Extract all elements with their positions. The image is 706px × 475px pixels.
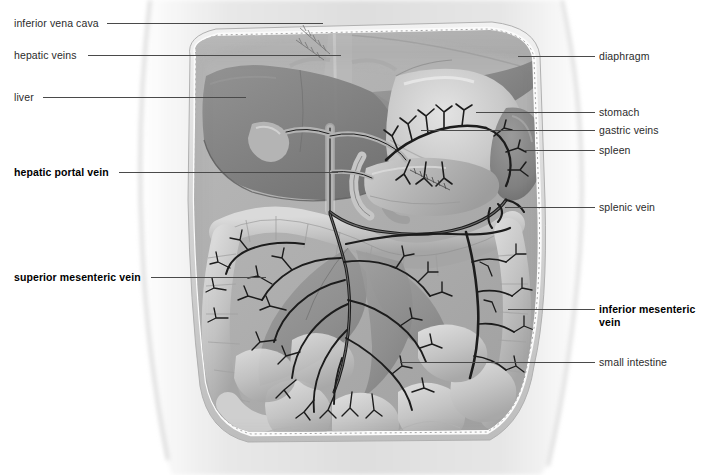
anatomical-illustration bbox=[0, 0, 706, 475]
leader-inferior-vena-cava bbox=[107, 23, 323, 24]
leader-small-intestine bbox=[400, 362, 595, 363]
label-hepatic-veins: hepatic veins bbox=[14, 49, 77, 62]
leader-diaphragm bbox=[518, 56, 595, 57]
leader-hepatic-portal-vein bbox=[119, 172, 338, 173]
label-spleen: spleen bbox=[599, 144, 631, 157]
label-gastric-veins: gastric veins bbox=[599, 124, 659, 137]
abdominal-cavity-contents bbox=[180, 18, 560, 452]
label-inferior-mesenteric-vein: inferior mesenteric vein bbox=[599, 303, 699, 328]
label-liver: liver bbox=[14, 91, 34, 104]
label-small-intestine: small intestine bbox=[599, 356, 667, 369]
label-splenic-vein: splenic vein bbox=[599, 201, 655, 214]
label-inferior-vena-cava: inferior vena cava bbox=[14, 17, 99, 30]
leader-superior-mesenteric-vein bbox=[151, 277, 266, 278]
label-superior-mesenteric-vein: superior mesenteric vein bbox=[14, 271, 141, 284]
figure-canvas: inferior vena cava hepatic veins liver h… bbox=[0, 0, 706, 475]
label-stomach: stomach bbox=[599, 106, 639, 119]
leader-inferior-mesenteric-vein bbox=[508, 309, 595, 310]
leader-stomach bbox=[476, 112, 595, 113]
leader-splenic-vein bbox=[505, 207, 595, 208]
leader-spleen bbox=[524, 150, 595, 151]
label-diaphragm: diaphragm bbox=[599, 50, 650, 63]
leader-liver bbox=[43, 97, 246, 98]
leader-hepatic-veins bbox=[88, 55, 341, 56]
leader-gastric-veins bbox=[421, 130, 595, 131]
label-hepatic-portal-vein: hepatic portal vein bbox=[14, 166, 109, 179]
